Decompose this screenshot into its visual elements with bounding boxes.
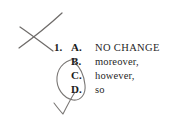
- option-text-d[interactable]: so: [95, 84, 105, 95]
- option-letter-a[interactable]: A.: [71, 41, 95, 53]
- option-letter-c[interactable]: C.: [71, 69, 95, 81]
- question-number: 1.: [54, 41, 71, 53]
- multiple-choice-question: 1. A. NO CHANGE B. moreover, C. however,…: [54, 41, 160, 97]
- option-row[interactable]: B. moreover,: [54, 55, 160, 69]
- option-letter-d[interactable]: D.: [71, 83, 95, 95]
- option-row[interactable]: D. so: [54, 83, 160, 97]
- option-row[interactable]: 1. A. NO CHANGE: [54, 41, 160, 55]
- option-text-c[interactable]: however,: [95, 70, 135, 81]
- option-text-b[interactable]: moreover,: [95, 56, 139, 67]
- option-letter-b[interactable]: B.: [71, 55, 95, 67]
- option-row[interactable]: C. however,: [54, 69, 160, 83]
- option-text-a[interactable]: NO CHANGE: [95, 42, 160, 53]
- scanned-worksheet-page: 1. A. NO CHANGE B. moreover, C. however,…: [0, 0, 194, 126]
